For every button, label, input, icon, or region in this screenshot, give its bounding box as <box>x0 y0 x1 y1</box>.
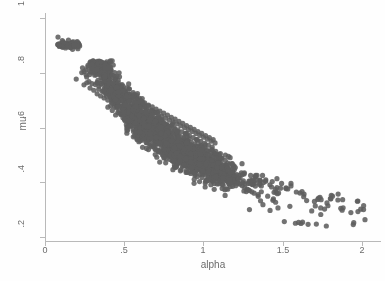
y-tick <box>40 18 45 19</box>
y-axis-line <box>45 13 46 242</box>
x-tick-label: 1 <box>183 245 223 255</box>
x-tick-label: 1.5 <box>263 245 303 255</box>
x-tick-label: .5 <box>104 245 144 255</box>
y-tick-label: .4 <box>0 177 38 187</box>
y-tick <box>40 237 45 238</box>
x-tick-label: 0 <box>25 245 65 255</box>
scatter-plot-canvas <box>0 0 385 281</box>
x-axis-line <box>45 241 381 242</box>
y-tick <box>40 73 45 74</box>
y-tick-label: 1 <box>0 13 38 23</box>
y-tick-label: .8 <box>0 68 38 78</box>
y-tick-label: .2 <box>0 232 38 242</box>
x-axis-title: alpha <box>45 259 381 270</box>
scatter-plot-figure: .2.4.6.81 0.511.52 mu alpha <box>0 0 385 281</box>
x-tick-label: 2 <box>342 245 382 255</box>
y-tick <box>40 128 45 129</box>
y-tick <box>40 182 45 183</box>
y-axis-title: mu <box>17 113 28 135</box>
